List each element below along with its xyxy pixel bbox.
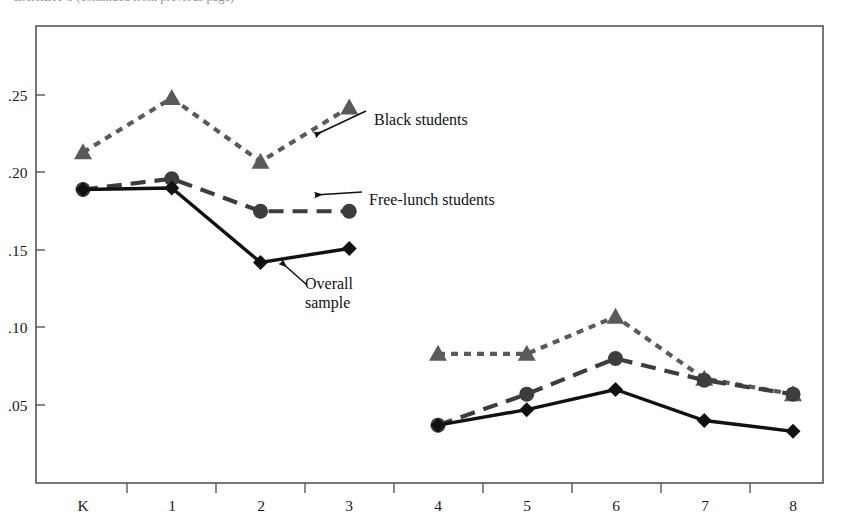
y-tick-label-20: .20 (8, 164, 28, 181)
y-tick-group (36, 95, 45, 405)
data-point-marker (786, 424, 801, 439)
y-axis: .25 .20 .15 .10 .05 (8, 87, 45, 414)
series-layer (74, 89, 802, 439)
annotation-overall-sample-line-1: Overall (305, 275, 354, 292)
arrow-free-lunch-students (315, 192, 362, 195)
data-point-marker (163, 89, 181, 105)
data-point-marker (697, 413, 712, 428)
series-black-students (74, 89, 802, 401)
y-tick-label-15: .15 (8, 242, 28, 259)
annotation-labels: Black students Free-lunch students Overa… (305, 111, 495, 312)
x-tick-label-6: 6 (612, 497, 620, 514)
series-line (83, 98, 349, 162)
x-axis: K 1 2 3 4 5 6 7 8 (77, 483, 797, 514)
chart-canvas: .25 .20 .15 .10 .05 K 1 2 3 4 5 (0, 0, 843, 526)
data-point-marker (253, 204, 268, 219)
annotation-free-lunch-students: Free-lunch students (369, 191, 495, 208)
y-tick-label-25: .25 (8, 87, 28, 104)
x-tick-label-1: 1 (168, 497, 176, 514)
data-point-marker (342, 204, 357, 219)
y-tick-label-10: .10 (8, 319, 28, 336)
x-tick-label-4: 4 (434, 497, 442, 514)
series-line (83, 188, 349, 262)
annotation-arrows (281, 111, 366, 285)
data-point-marker (340, 98, 358, 114)
series-overall-sample (76, 181, 801, 439)
x-tick-label-k: K (77, 497, 89, 514)
annotation-black-students: Black students (374, 111, 468, 128)
data-point-marker (607, 308, 625, 324)
arrow-overall-sample (281, 262, 307, 285)
x-tick-group (127, 483, 750, 493)
x-tick-label-2: 2 (257, 497, 265, 514)
x-tick-label-5: 5 (523, 497, 531, 514)
data-point-marker (519, 402, 534, 417)
x-tick-label-7: 7 (701, 497, 709, 514)
x-tick-label-8: 8 (789, 497, 797, 514)
x-tick-label-3: 3 (345, 497, 353, 514)
data-point-marker (608, 382, 623, 397)
series-free-lunch-students (76, 171, 801, 432)
y-tick-label-05: .05 (8, 397, 28, 414)
annotation-overall-sample-line-2: sample (305, 294, 350, 312)
chart-figure: EXHIBIT 5 (continued from previous page)… (0, 0, 843, 526)
series-line (83, 179, 349, 212)
data-point-marker (697, 373, 712, 388)
data-point-marker (519, 387, 534, 402)
data-point-marker (342, 241, 357, 256)
data-point-marker (252, 153, 270, 169)
data-point-marker (608, 351, 623, 366)
data-point-marker (786, 387, 801, 402)
data-point-marker (74, 143, 92, 159)
